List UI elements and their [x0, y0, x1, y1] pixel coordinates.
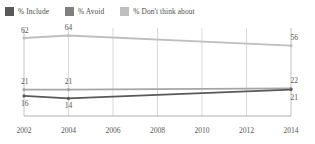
data-point-marker	[22, 94, 25, 97]
data-point-marker	[289, 88, 292, 91]
legend-item-dont-think-about: % Don't think about	[120, 7, 194, 16]
x-axis-tick-labels: 2002200420062008201020122014	[16, 126, 298, 135]
x-tick-label-2012: 2012	[239, 126, 254, 135]
data-point-marker	[289, 44, 292, 47]
legend-label-avoid: % Avoid	[78, 7, 104, 16]
value-label: 56	[290, 33, 298, 42]
data-point-marker	[22, 36, 25, 39]
x-tick-label-2004: 2004	[61, 126, 76, 135]
legend-item-include: % Include	[5, 7, 49, 16]
x-tick-label-2006: 2006	[105, 126, 120, 135]
series-line-1	[24, 88, 291, 89]
legend-swatch-icon	[5, 7, 14, 16]
x-tick-label-2010: 2010	[194, 126, 209, 135]
value-label: 21	[21, 77, 29, 86]
value-label: 21	[65, 77, 73, 86]
value-label: 14	[65, 101, 73, 110]
legend-swatch-icon	[65, 7, 74, 16]
x-tick-label-2002: 2002	[16, 126, 31, 135]
line-chart-svg: 626456212122161421 200220042006200820102…	[0, 22, 315, 144]
data-point-marker	[67, 88, 70, 91]
value-label: 16	[21, 99, 29, 108]
data-point-marker	[67, 34, 70, 37]
legend-swatch-icon	[120, 7, 129, 16]
value-label: 62	[21, 26, 29, 35]
data-point-marker	[22, 88, 25, 91]
chart-legend: % Include % Avoid % Don't think about	[0, 0, 315, 22]
x-tick-label-2008: 2008	[150, 126, 165, 135]
x-tick-label-2014: 2014	[283, 126, 298, 135]
legend-label-dont-think-about: % Don't think about	[133, 7, 194, 16]
value-label: 64	[65, 23, 73, 32]
data-point-marker	[67, 97, 70, 100]
chart-container: % Include % Avoid % Don't think about 62…	[0, 0, 315, 144]
plot-area: 626456212122161421 200220042006200820102…	[0, 22, 315, 144]
legend-label-include: % Include	[18, 7, 49, 16]
value-label: 21	[290, 93, 298, 102]
legend-item-avoid: % Avoid	[65, 7, 104, 16]
value-label: 22	[290, 76, 298, 85]
